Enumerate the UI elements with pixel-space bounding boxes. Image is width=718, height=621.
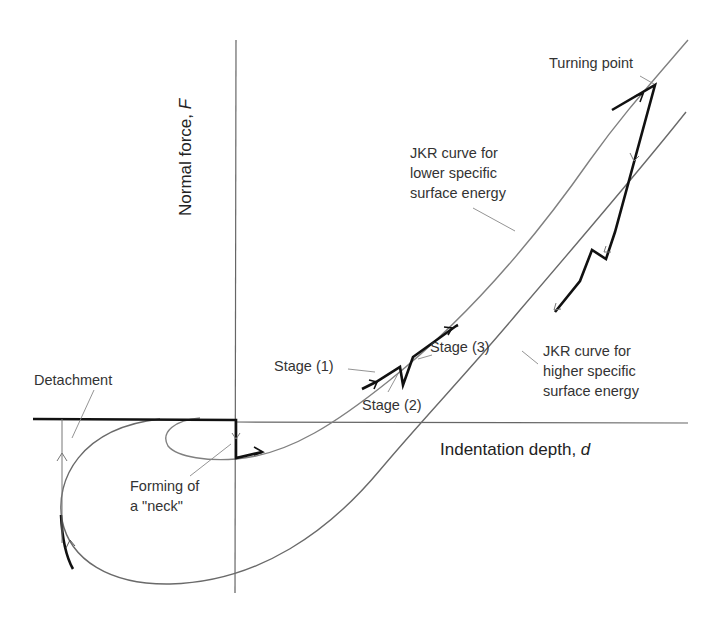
leader-detachment <box>72 390 94 438</box>
stages-path <box>362 325 458 389</box>
leader-jkr-lower <box>473 208 515 231</box>
leader-stage1 <box>348 369 375 372</box>
detachment-label: Detachment <box>34 370 112 390</box>
turning-point-label: Turning point <box>549 53 633 73</box>
stage2-label: Stage (2) <box>362 395 422 415</box>
y-axis <box>235 40 236 593</box>
jkr-diagram <box>0 0 718 621</box>
neck-label: Forming of a "neck" <box>130 476 199 516</box>
x-axis <box>236 422 688 423</box>
leader-jkr-higher <box>522 351 538 364</box>
leader-turning-point <box>640 76 654 84</box>
stage3-label: Stage (3) <box>430 337 490 357</box>
y-axis-label: Normal force, F <box>176 76 200 216</box>
jkr-higher-label: JKR curve for higher specific surface en… <box>543 341 639 401</box>
x-axis-label: Indentation depth, d <box>440 440 590 460</box>
arrow-icon <box>254 447 263 455</box>
loading-path <box>555 85 655 312</box>
detachment-path <box>33 419 262 458</box>
jkr-lower-label: JKR curve for lower specific surface ene… <box>410 143 506 203</box>
stage1-label: Stage (1) <box>274 356 334 376</box>
